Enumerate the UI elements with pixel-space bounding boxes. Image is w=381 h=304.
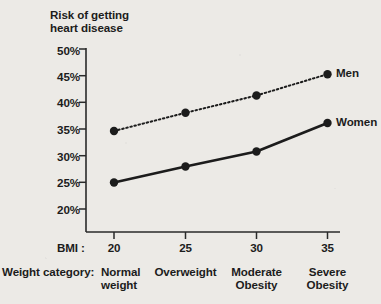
- x-tick-label-20: 20: [91, 241, 137, 254]
- series-line-men: [114, 74, 328, 131]
- x-tick-label-25: 25: [163, 241, 209, 254]
- x-tick-label-30: 30: [234, 241, 280, 254]
- x-axis-ticks: [114, 232, 328, 239]
- data-point-men-20: [110, 127, 118, 135]
- x-axis-name-bmi: BMI :: [57, 241, 85, 254]
- data-point-women-25: [181, 162, 189, 170]
- x-tick-label-35: 35: [305, 241, 351, 254]
- data-point-women-30: [252, 147, 260, 155]
- chart-plot-area: [0, 0, 381, 304]
- category-label-severe-obesity: Severe Obesity: [291, 265, 365, 291]
- data-point-women-35: [323, 119, 331, 127]
- data-point-men-30: [252, 91, 260, 99]
- legend-label-men: Men: [336, 66, 359, 79]
- category-label-moderate-obesity: Moderate Obesity: [220, 265, 294, 291]
- data-point-men-35: [323, 70, 331, 78]
- series-markers-men: [110, 70, 332, 135]
- chart-figure: Risk of getting heart disease 50% 45% 40…: [0, 0, 381, 304]
- legend-label-women: Women: [336, 115, 377, 128]
- y-axis-ticks: [79, 49, 86, 209]
- data-point-women-20: [110, 178, 118, 186]
- category-label-overweight: Overweight: [149, 265, 223, 278]
- data-point-men-25: [181, 109, 189, 117]
- series-line-women: [114, 123, 328, 183]
- secondary-axis-name-weight-category: Weight category:: [2, 265, 94, 278]
